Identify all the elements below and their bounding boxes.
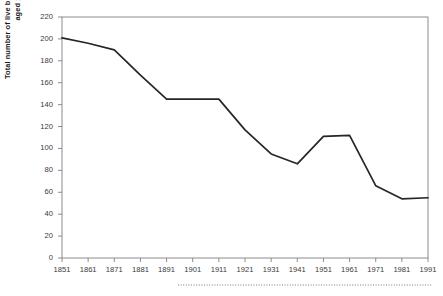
- y-tick-label: 100: [27, 143, 53, 152]
- y-tick-label: 180: [27, 56, 53, 65]
- y-axis-title: Total number of live births per 1000 wom…: [3, 0, 29, 86]
- y-tick-label: 0: [27, 253, 53, 262]
- y-tick-label: 80: [27, 165, 53, 174]
- y-tick-label: 40: [27, 209, 53, 218]
- x-axis-ticks: [62, 258, 428, 262]
- y-tick-label: 160: [27, 78, 53, 87]
- data-series-line: [62, 38, 428, 199]
- y-tick-label: 120: [27, 122, 53, 131]
- chart-plot-area: [0, 0, 443, 296]
- fertility-line-chart: Total number of live births per 1000 wom…: [0, 0, 443, 296]
- y-tick-label: 140: [27, 100, 53, 109]
- y-tick-label: 20: [27, 231, 53, 240]
- y-tick-label: 220: [27, 12, 53, 21]
- y-tick-label: 60: [27, 187, 53, 196]
- y-axis-ticks: [58, 17, 62, 258]
- x-tick-label: 1991: [413, 265, 443, 274]
- y-tick-label: 200: [27, 34, 53, 43]
